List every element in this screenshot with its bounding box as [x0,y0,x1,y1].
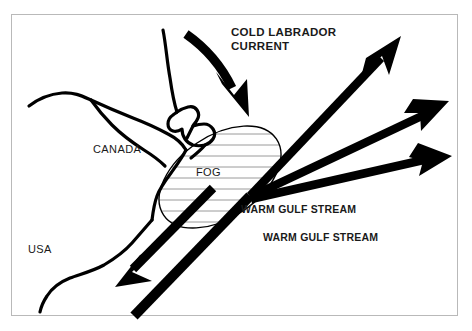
label-cold-labrador-line1: COLD LABRADOR [231,26,336,40]
label-warm-gulf-stream-upper: WARM GULF STREAM [241,203,356,215]
figure-root: COLD LABRADOR CURRENT CANADA FOG USA WAR… [0,0,472,331]
label-cold-labrador-current: COLD LABRADOR CURRENT [231,26,336,53]
label-usa: USA [28,243,52,256]
label-canada: CANADA [93,143,141,156]
label-warm-gulf-stream-lower: WARM GULF STREAM [263,231,378,243]
label-cold-labrador-line2: CURRENT [231,40,336,54]
coastline [29,30,186,312]
label-fog: FOG [196,166,221,179]
